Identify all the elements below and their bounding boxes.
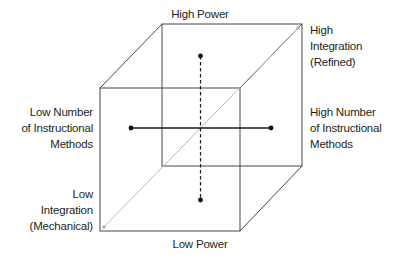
power-axis-top-dot (198, 54, 203, 59)
cube-edge-top-left (100, 24, 162, 88)
depth-axis-far-end (296, 26, 300, 30)
cube-edge-bottom-right (240, 166, 302, 231)
label-low-number-methods: Low Number of Instructional Methods (21, 104, 93, 152)
power-axis-bottom-dot (198, 198, 203, 203)
depth-axis-near-end (102, 225, 106, 229)
label-low-power: Low Power (160, 236, 240, 252)
methods-axis-right-dot (269, 126, 274, 131)
label-high-number-methods: High Number of Instructional Methods (310, 104, 382, 152)
label-high-integration: High Integration (Refined) (310, 22, 362, 70)
label-low-integration: Low Integration (Mechanical) (30, 186, 93, 234)
methods-axis-left-dot (129, 126, 134, 131)
label-high-power: High Power (160, 6, 240, 22)
